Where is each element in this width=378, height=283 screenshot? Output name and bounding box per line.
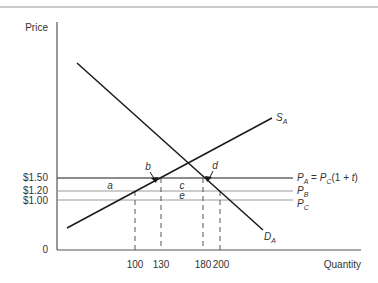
price-tick-100: $1.00 bbox=[23, 195, 48, 206]
pa-label: PA = PC(1 + t) bbox=[297, 172, 358, 185]
supply-label: SA bbox=[276, 112, 288, 125]
x-axis-label: Quantity bbox=[324, 259, 361, 270]
qty-tick-130: 130 bbox=[153, 259, 170, 270]
y-axis-label: Price bbox=[25, 22, 48, 33]
area-b-label: b bbox=[145, 161, 151, 172]
origin-label: 0 bbox=[42, 244, 48, 255]
qty-tick-200: 200 bbox=[213, 259, 230, 270]
area-d-label: d bbox=[212, 160, 218, 171]
price-tick-150: $1.50 bbox=[23, 172, 48, 183]
area-a-label: a bbox=[107, 180, 113, 191]
tariff-diagram: Price Quantity 0 $1.50 $1.20 $1.00 100 1… bbox=[0, 0, 378, 283]
supply-curve bbox=[67, 118, 272, 228]
demand-curve bbox=[77, 63, 263, 230]
area-e-label: e bbox=[179, 190, 185, 201]
demand-label: DA bbox=[264, 231, 276, 244]
pc-label: PC bbox=[297, 198, 310, 211]
qty-tick-100: 100 bbox=[127, 259, 144, 270]
qty-tick-180: 180 bbox=[195, 259, 212, 270]
pb-label: PB bbox=[297, 185, 309, 198]
arrow-d-icon bbox=[205, 171, 213, 182]
